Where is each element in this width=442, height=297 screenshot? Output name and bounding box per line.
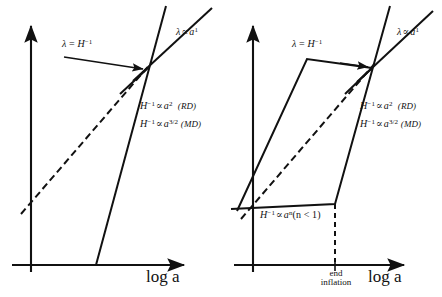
left-lambda-equals-hubble-label: λ = H−1: [62, 39, 92, 50]
left-x-axis-label: log a: [146, 268, 180, 286]
panel-standard-big-bang: [12, 6, 212, 272]
right-lambda-prop-a-label: λ∝a1: [397, 27, 419, 38]
left-hubble-solid: [96, 6, 166, 265]
proportional-icon: ∝: [155, 118, 164, 129]
end-inflation-tick-label: end inflation: [315, 269, 357, 288]
left-hubble-rd-label: H−1∝a2 (RD): [140, 101, 196, 112]
power-glyph: 3/2: [389, 118, 398, 126]
power-glyph: 3/2: [169, 118, 178, 126]
right-hubble-rd-label: H−1∝a2 (RD): [360, 101, 416, 112]
panel-inflation: [231, 6, 433, 272]
end-inflation-line2: inflation: [315, 278, 357, 287]
right-lambda-equals-hubble-label: λ = H−1: [292, 39, 322, 50]
proportional-icon: ∝: [275, 209, 284, 220]
exponent-glyph: −1: [267, 209, 275, 217]
exponent-glyph: 1: [194, 26, 198, 34]
hubble-glyph: H: [307, 38, 314, 49]
hubble-glyph: H: [77, 38, 84, 49]
proportional-icon: ∝: [375, 118, 384, 129]
proportional-icon: ∝: [180, 26, 189, 37]
exponent-glyph: −1: [85, 38, 93, 46]
exponent-glyph: −1: [147, 100, 155, 108]
figure-root: λ = H−1 λ∝a1 H−1∝a2 (RD) H−1∝a3/2 (MD) l…: [0, 0, 442, 297]
power-glyph: 2: [389, 100, 393, 108]
era-tag-md: (MD): [401, 119, 421, 129]
left-lambda-prop-a-label: λ∝a1: [176, 27, 198, 38]
proportional-icon: ∝: [155, 100, 164, 111]
exponent-glyph: −1: [367, 100, 375, 108]
era-tag-rd: (RD): [398, 101, 416, 111]
exponent-glyph: −1: [147, 118, 155, 126]
power-glyph: 2: [169, 100, 173, 108]
proportional-icon: ∝: [375, 100, 384, 111]
equals-glyph: =: [66, 38, 77, 49]
exponent-condition: (n < 1): [293, 209, 321, 220]
left-hubble-md-label: H−1∝a3/2 (MD): [140, 119, 201, 130]
right-x-axis-label: log a: [368, 268, 402, 286]
era-tag-md: (MD): [181, 119, 201, 129]
left-lambda-callout-arrow: [64, 57, 143, 69]
right-hubble-md-label: H−1∝a3/2 (MD): [360, 119, 421, 130]
right-lambda-inflation-path: [237, 59, 372, 211]
right-hubble-dashed: [241, 62, 376, 219]
exponent-glyph: −1: [315, 38, 323, 46]
era-tag-rd: (RD): [178, 101, 196, 111]
proportional-icon: ∝: [401, 26, 410, 37]
exponent-glyph: 1: [415, 26, 419, 34]
left-hubble-dashed: [21, 62, 152, 214]
equals-glyph: =: [296, 38, 307, 49]
exponent-glyph: −1: [367, 118, 375, 126]
right-hubble-n-label: H−1∝an(n < 1): [260, 210, 321, 221]
